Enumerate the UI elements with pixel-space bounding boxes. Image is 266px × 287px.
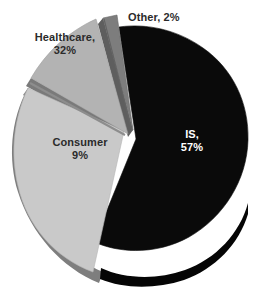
pie-label-healthcare-value: 32%: [22, 44, 108, 57]
pie-label-other-text: Other, 2%: [128, 11, 180, 24]
pie-label-is: IS, 57%: [168, 128, 216, 153]
pie-label-healthcare-name: Healthcare,: [22, 31, 108, 44]
pie-label-is-name: IS,: [168, 128, 216, 141]
pie-label-healthcare: Healthcare, 32%: [22, 31, 108, 56]
pie-label-consumer-name: Consumer: [38, 136, 122, 149]
pie-label-is-value: 57%: [168, 141, 216, 154]
pie-label-consumer: Consumer 9%: [38, 136, 122, 161]
pie-chart: Other, 2% Healthcare, 32% Consumer 9% IS…: [0, 0, 266, 287]
pie-label-other: Other, 2%: [128, 11, 180, 24]
pie-label-consumer-value: 9%: [38, 149, 122, 162]
